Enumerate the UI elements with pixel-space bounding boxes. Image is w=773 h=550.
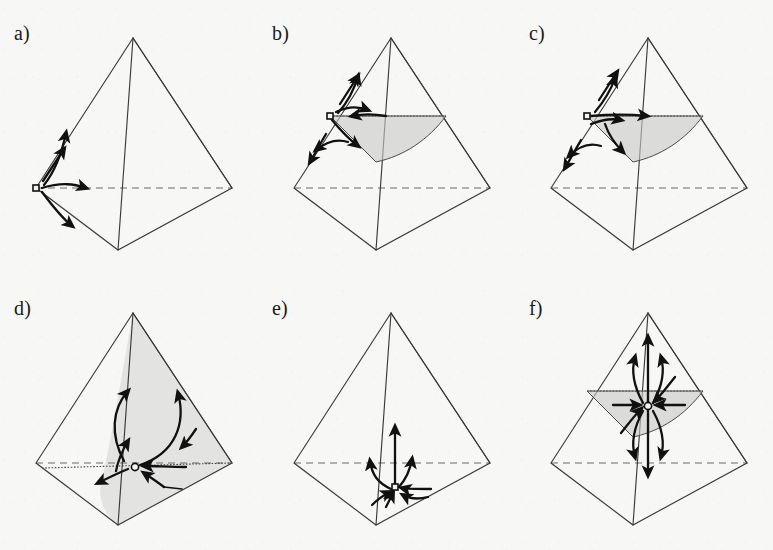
panel-label-e: e) <box>272 297 288 320</box>
equilibrium-saddle-marker <box>392 484 398 490</box>
panel-e: e) <box>258 275 516 550</box>
figure-canvas: a) b) <box>0 0 773 550</box>
flow-field-e <box>370 427 431 507</box>
edge-apex-right <box>391 38 490 188</box>
panel-c: c) <box>515 0 773 275</box>
equilibrium-saddle-marker <box>131 463 138 470</box>
edge-apex-right <box>648 38 747 188</box>
panel-a: a) <box>0 0 258 275</box>
equilibrium-saddle-marker <box>33 185 39 191</box>
panel-f: f) <box>515 275 773 550</box>
flow-field-a <box>42 133 86 226</box>
panel-label-a: a) <box>14 22 30 45</box>
arrow-curve-down-front <box>42 192 72 226</box>
arrow-down-left-edge <box>565 140 581 168</box>
edge-apex-right <box>133 38 232 188</box>
shaded-face-upper-sail <box>587 116 703 162</box>
arrow-inflow-right-lower <box>403 495 428 498</box>
shaded-face-upper-sail <box>330 116 446 162</box>
shaded-face-right <box>118 313 232 525</box>
arrow-down-left-edge <box>310 134 326 162</box>
shaded-face-upper-sail <box>587 391 703 437</box>
panel-label-d: d) <box>14 297 31 320</box>
panel-label-c: c) <box>529 22 545 45</box>
edge-apex-right <box>391 313 490 463</box>
arrow-inflow-right-dotted <box>144 466 186 467</box>
equilibrium-source-sink-marker <box>644 402 651 409</box>
panel-label-b: b) <box>272 22 289 45</box>
arrow-curve-up-plane <box>595 78 615 112</box>
edge-apex-front <box>118 38 133 250</box>
arrow-inflow-right <box>402 488 431 489</box>
panel-label-f: f) <box>529 297 543 320</box>
arrow-up-left-edge <box>599 72 617 100</box>
arrow-inflow-below <box>386 493 393 507</box>
tetrahedron-a <box>36 38 232 250</box>
equilibrium-saddle-marker <box>584 113 590 119</box>
panel-b: b) <box>258 0 516 275</box>
equilibrium-saddle-marker <box>327 113 333 119</box>
panel-d: d) <box>0 275 258 550</box>
